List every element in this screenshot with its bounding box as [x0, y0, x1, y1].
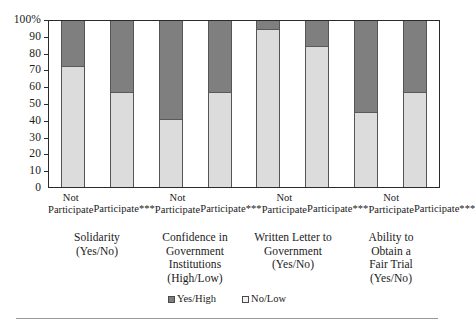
x-tick-label: Participate*** [93, 190, 154, 224]
x-tick-label-line1: Participate*** [414, 203, 475, 215]
y-tick-label-80: 80 [29, 48, 41, 60]
legend-swatch-no-low-icon [242, 296, 249, 303]
bottom-divider-rule [16, 318, 438, 319]
bar-segment-no-low [306, 46, 328, 187]
bar-slot [293, 21, 342, 187]
bar-segment-yes-high [306, 21, 328, 46]
legend-item[interactable]: Yes/High [168, 293, 216, 305]
bar-slot [195, 21, 244, 187]
bar-segment-yes-high [160, 21, 182, 119]
bar-slot [390, 21, 439, 187]
x-tick-label: NotParticipate [155, 190, 200, 224]
bar-segment-no-low [62, 66, 84, 187]
stacked-bar[interactable] [208, 21, 232, 187]
chart-legend: Yes/HighNo/Low [0, 293, 454, 305]
stacked-bar[interactable] [305, 21, 329, 187]
x-tick-label-line2: Participate [368, 204, 413, 216]
x-tick-label-line1: Not [262, 192, 307, 204]
bar-segment-no-low [111, 92, 133, 187]
y-tick-label-10: 10 [29, 165, 41, 177]
group-label-line: (Yes/No) [244, 258, 342, 272]
plot-wrapper: 100% 90 80 70 60 50 40 30 20 10 0 [0, 0, 454, 200]
group-label-line: Obtain a [342, 245, 440, 259]
x-axis-tick-labels: NotParticipateParticipate***NotParticipa… [48, 190, 440, 224]
group-label-line: Government [244, 245, 342, 259]
x-tick-label: NotParticipate [262, 190, 307, 224]
bar-slot [147, 21, 196, 187]
stacked-bar[interactable] [159, 21, 183, 187]
bar-series-container [49, 21, 439, 187]
bar-segment-no-low [355, 112, 377, 187]
x-tick-label: Participate*** [414, 190, 475, 224]
y-tick-label-50: 50 [29, 98, 41, 110]
bar-segment-yes-high [257, 21, 279, 29]
bar-segment-yes-high [355, 21, 377, 112]
x-tick-label: NotParticipate [368, 190, 413, 224]
x-tick-label-line2: Participate [155, 204, 200, 216]
bar-slot [49, 21, 98, 187]
legend-item[interactable]: No/Low [242, 293, 286, 305]
bar-segment-no-low [257, 29, 279, 187]
group-label-line: Government [146, 245, 244, 259]
bar-segment-no-low [160, 119, 182, 187]
group-label: Confidence inGovernmentInstitutions(High… [146, 231, 244, 293]
x-tick-label-line1: Not [368, 192, 413, 204]
group-label-line: (Yes/No) [342, 272, 440, 286]
x-tick-label: Participate*** [307, 190, 368, 224]
stacked-bar[interactable] [61, 21, 85, 187]
legend-swatch-yes-high-icon [168, 296, 175, 303]
y-axis-labels: 100% 90 80 70 60 50 40 30 20 10 0 [0, 0, 48, 200]
y-tick-label-90: 90 [29, 31, 41, 43]
stacked-bar[interactable] [110, 21, 134, 187]
y-tick-label-40: 40 [29, 115, 41, 127]
bar-slot [244, 21, 293, 187]
bar-segment-yes-high [209, 21, 231, 92]
stacked-bar[interactable] [403, 21, 427, 187]
plot-area [48, 20, 440, 188]
legend-label: Yes/High [177, 293, 216, 304]
x-tick-label-line2: Participate [262, 204, 307, 216]
bar-segment-no-low [404, 92, 426, 187]
x-tick-label-line1: Not [155, 192, 200, 204]
y-tick-label-100: 100% [14, 14, 41, 26]
legend-label: No/Low [251, 293, 286, 304]
stacked-bar[interactable] [354, 21, 378, 187]
y-tick-label-20: 20 [29, 149, 41, 161]
bar-segment-yes-high [111, 21, 133, 92]
bar-segment-yes-high [62, 21, 84, 66]
x-tick-label-line1: Participate*** [307, 203, 368, 215]
y-tick-label-70: 70 [29, 65, 41, 77]
bar-slot [98, 21, 147, 187]
bar-segment-no-low [209, 92, 231, 187]
group-label-line: Ability to [342, 231, 440, 245]
group-label: Ability toObtain aFair Trial(Yes/No) [342, 231, 440, 293]
stacked-bar[interactable] [256, 21, 280, 187]
group-label-line: Institutions [146, 258, 244, 272]
bar-slot [342, 21, 391, 187]
group-label-line: (High/Low) [146, 272, 244, 286]
x-tick-label-line2: Participate [48, 204, 93, 216]
x-axis-group-labels: Solidarity(Yes/No)Confidence inGovernmen… [48, 231, 440, 293]
bar-segment-yes-high [404, 21, 426, 92]
y-tick-label-60: 60 [29, 81, 41, 93]
x-tick-label: Participate*** [200, 190, 261, 224]
group-label-line: Confidence in [146, 231, 244, 245]
x-tick-label-line1: Not [48, 192, 93, 204]
y-tick-label-0: 0 [35, 182, 41, 194]
group-label-line: Solidarity [48, 231, 146, 245]
x-tick-label-line1: Participate*** [200, 203, 261, 215]
group-label: Written Letter toGovernment(Yes/No) [244, 231, 342, 293]
x-tick-label: NotParticipate [48, 190, 93, 224]
group-label-line: Fair Trial [342, 258, 440, 272]
group-label-line: (Yes/No) [48, 245, 146, 259]
y-tick-label-30: 30 [29, 132, 41, 144]
x-tick-label-line1: Participate*** [93, 203, 154, 215]
group-label: Solidarity(Yes/No) [48, 231, 146, 293]
group-label-line: Written Letter to [244, 231, 342, 245]
